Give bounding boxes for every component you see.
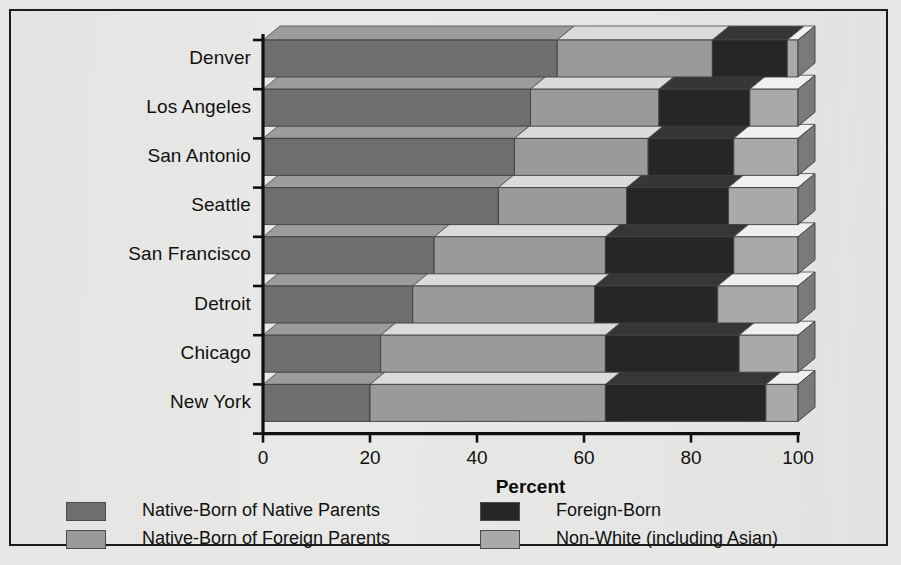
bar-segment-face	[263, 89, 531, 126]
bar-segment-face	[263, 26, 574, 40]
bar-segment-face	[514, 138, 648, 175]
legend-swatch	[480, 502, 520, 521]
bar-denver	[263, 26, 815, 77]
bar-new-york	[263, 370, 815, 421]
x-axis-tick-label: 0	[233, 447, 293, 469]
bar-san-antonio	[263, 124, 815, 175]
x-axis-tick-label: 80	[661, 447, 721, 469]
bar-segment-face	[734, 237, 798, 274]
x-axis-tick-label: 20	[340, 447, 400, 469]
legend-swatch	[66, 502, 106, 521]
bar-segment-face	[498, 188, 626, 225]
bar-segment-face	[263, 286, 413, 323]
bar-segment-face	[263, 237, 434, 274]
y-axis-category-label: San Antonio	[11, 145, 251, 167]
bar-segment-face	[557, 26, 729, 40]
bar-segment-face	[648, 138, 734, 175]
legend-swatch	[66, 530, 106, 549]
y-axis-category-label: New York	[11, 391, 251, 413]
bar-san-francisco	[263, 223, 815, 274]
bar-segment-face	[263, 138, 514, 175]
bar-los-angeles	[263, 75, 815, 126]
bar-seattle	[263, 174, 815, 225]
bar-segment-face	[381, 335, 606, 372]
bar-segment-face	[627, 188, 729, 225]
y-axis-category-label: Los Angeles	[11, 96, 251, 118]
bar-segment-face	[263, 335, 381, 372]
bar-chicago	[263, 321, 815, 372]
x-axis-tick-label: 60	[554, 447, 614, 469]
legend-label: Non-White (including Asian)	[556, 528, 778, 549]
chart-figure: DenverLos AngelesSan AntonioSeattleSan F…	[0, 0, 901, 565]
bar-detroit	[263, 272, 815, 323]
bar-segment-face	[531, 89, 659, 126]
bar-segment-face	[787, 40, 798, 77]
bar-segment-face	[766, 384, 798, 421]
bar-segment-face	[605, 335, 739, 372]
x-axis-title: Percent	[431, 476, 631, 498]
bar-segment-face	[557, 40, 712, 77]
bar-segment-face	[750, 89, 798, 126]
y-axis-category-label: Chicago	[11, 342, 251, 364]
bar-segment-face	[595, 286, 718, 323]
bar-segment-face	[263, 188, 498, 225]
bar-segment-face	[605, 237, 733, 274]
y-axis-category-label: Denver	[11, 47, 251, 69]
bar-segment-face	[712, 40, 787, 77]
bar-segment-face	[728, 188, 798, 225]
y-axis-category-label: San Francisco	[11, 243, 251, 265]
bar-segment-face	[718, 286, 798, 323]
bar-segment-face	[263, 40, 557, 77]
bar-segment-face	[370, 384, 605, 421]
bar-segment-face	[605, 384, 766, 421]
x-axis-tick-label: 100	[768, 447, 828, 469]
bar-segment-face	[734, 138, 798, 175]
bar-group	[263, 26, 815, 421]
bar-segment-face	[434, 237, 605, 274]
x-axis-tick-label: 40	[447, 447, 507, 469]
bar-segment-face	[263, 384, 370, 421]
legend-swatch	[480, 530, 520, 549]
bar-segment-face	[659, 89, 750, 126]
bar-segment-face	[413, 286, 595, 323]
y-axis-category-label: Seattle	[11, 194, 251, 216]
y-axis-category-label: Detroit	[11, 293, 251, 315]
legend-label: Native-Born of Native Parents	[142, 500, 380, 521]
legend-label: Foreign-Born	[556, 500, 661, 521]
bar-segment-face	[739, 335, 798, 372]
legend-label: Native-Born of Foreign Parents	[142, 528, 390, 549]
